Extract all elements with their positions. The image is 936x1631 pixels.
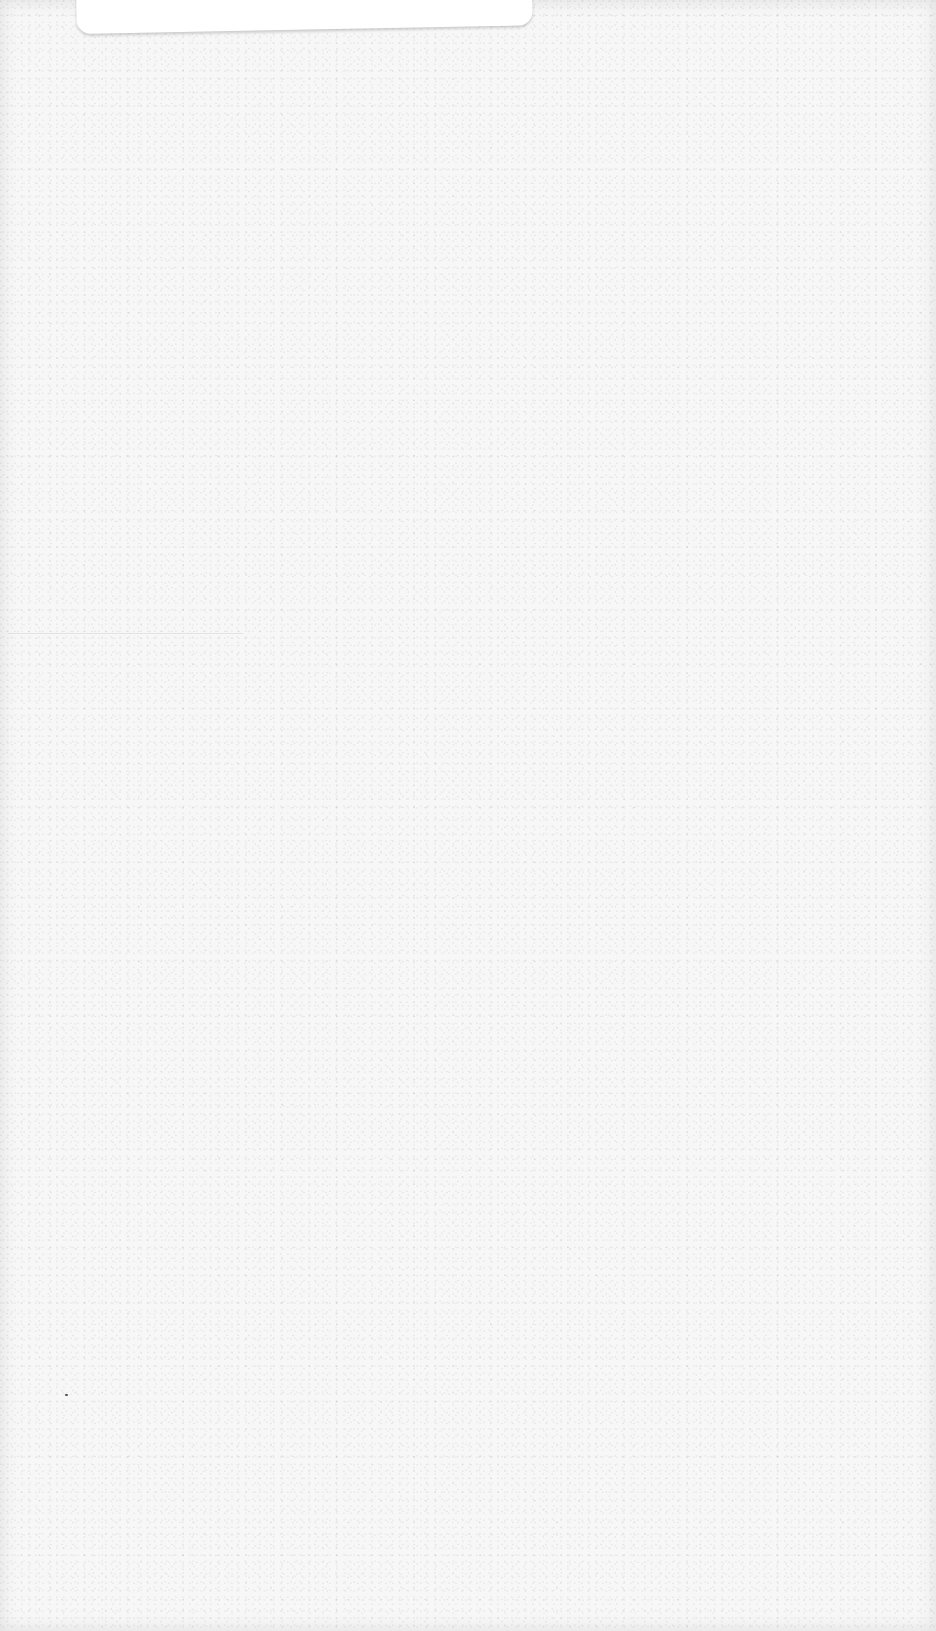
textured-background <box>0 0 936 1631</box>
dust-speck <box>65 1394 68 1396</box>
partial-card <box>76 0 533 34</box>
faint-divider-line <box>8 633 243 634</box>
